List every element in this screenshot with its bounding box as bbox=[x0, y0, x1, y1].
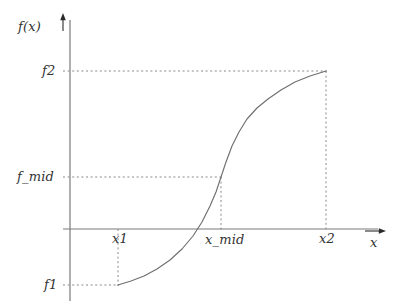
arrow-up-icon bbox=[60, 13, 66, 31]
x-tick-label-x2: x2 bbox=[319, 232, 335, 245]
vertical-guides bbox=[118, 71, 326, 286]
function-plot-figure: f(x) f2 f_mid f1 x1 x_mid x2 x bbox=[0, 0, 397, 306]
y-tick-label-f2: f2 bbox=[42, 64, 55, 77]
x-tick-label-x-mid: x_mid bbox=[205, 233, 245, 246]
y-axis-label: f(x) bbox=[18, 20, 41, 33]
y-tick-label-f1: f1 bbox=[44, 278, 57, 291]
plot-canvas bbox=[0, 0, 397, 306]
x-tick-label-x1: x1 bbox=[112, 232, 128, 245]
horizontal-guides bbox=[63, 71, 327, 285]
function-curve bbox=[118, 71, 326, 285]
y-tick-label-f-mid: f_mid bbox=[17, 170, 54, 183]
x-axis-label: x bbox=[370, 236, 378, 249]
